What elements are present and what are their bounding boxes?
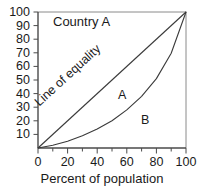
y-tick-label-80: 80 — [0, 33, 30, 46]
x-tick-label-100: 100 — [171, 156, 201, 169]
region-label-a: A — [118, 89, 126, 102]
y-tick-label-40: 40 — [0, 88, 30, 101]
chart-title: Country A — [53, 15, 110, 28]
y-tick-label-30: 30 — [0, 101, 30, 114]
x-axis-title: Percent of population — [0, 172, 204, 185]
y-tick-label-10: 10 — [0, 128, 30, 141]
y-tick-label-90: 90 — [0, 20, 30, 33]
x-tick-label-80: 80 — [141, 156, 171, 169]
y-tick-label-60: 60 — [0, 60, 30, 73]
x-tick-label-40: 40 — [82, 156, 112, 169]
y-tick-label-50: 50 — [0, 74, 30, 87]
y-tick-label-20: 20 — [0, 115, 30, 128]
x-tick-label-0: 0 — [23, 156, 53, 169]
y-tick-label-70: 70 — [0, 47, 30, 60]
region-label-b: B — [141, 114, 149, 127]
lorenz-curve-figure: Country A Line of equality A B 100 90 80… — [0, 0, 204, 190]
x-tick-label-60: 60 — [112, 156, 142, 169]
y-tick-label-100: 100 — [0, 6, 30, 19]
x-tick-label-20: 20 — [53, 156, 83, 169]
